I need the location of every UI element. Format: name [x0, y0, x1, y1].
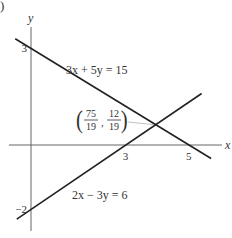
x-numerator: 75 [86, 108, 96, 119]
equation-label-1: 3x + 5y = 15 [66, 63, 128, 77]
series-line-1 [15, 39, 211, 159]
close-paren: ) [121, 105, 128, 134]
comma: , [101, 116, 104, 128]
linear-system-graph: ) xy353−2 3x + 5y = 152x − 3y = 6(7519,1… [0, 0, 232, 238]
y-numerator: 12 [109, 108, 119, 119]
intersection-point-label: (7519,1219) [76, 105, 128, 134]
equation-label-2: 2x − 3y = 6 [72, 188, 128, 202]
x-axis-label: x [224, 138, 231, 152]
x-denominator: 19 [86, 121, 96, 132]
y-axis-label: y [27, 11, 34, 25]
x-tick-label: 5 [186, 150, 192, 162]
leader-line [128, 122, 154, 125]
figure-label: ) [0, 0, 4, 13]
x-tick-label: 3 [123, 150, 129, 162]
y-denominator: 19 [109, 121, 119, 132]
open-paren: ( [76, 105, 83, 134]
